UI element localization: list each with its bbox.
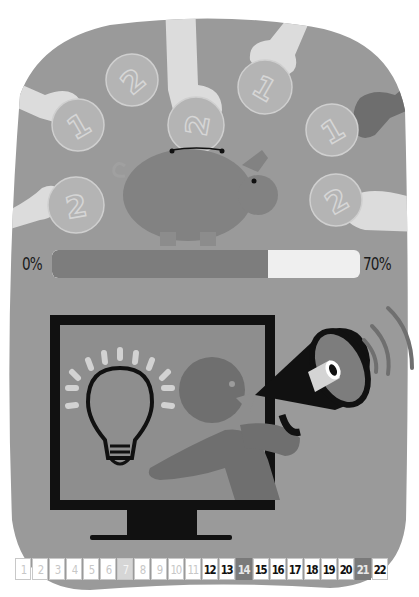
day-number: 12 <box>204 562 216 577</box>
day-number: 4 <box>71 562 76 577</box>
day-box: 22 <box>372 558 388 580</box>
progress-fill <box>52 250 268 278</box>
day-box: 4 <box>66 558 82 580</box>
day-box: 6 <box>100 558 116 580</box>
day-number: 6 <box>105 562 110 577</box>
day-box: 10 <box>168 558 184 580</box>
day-number: 9 <box>156 562 161 577</box>
day-number: 15 <box>255 562 267 577</box>
day-box: 16 <box>270 558 286 580</box>
day-number: 22 <box>374 562 386 577</box>
day-box: 2 <box>32 558 48 580</box>
day-number: 18 <box>306 562 318 577</box>
day-number: 11 <box>188 562 199 577</box>
day-box: 18 <box>304 558 320 580</box>
day-number: 13 <box>221 562 233 577</box>
day-number: 14 <box>238 562 250 577</box>
day-box: 21 <box>355 558 371 580</box>
day-box: 17 <box>287 558 303 580</box>
day-number: 1 <box>20 562 25 577</box>
day-box: 9 <box>151 558 167 580</box>
day-strip: 12345678910111213141516171819202122 <box>15 558 388 580</box>
day-box: 14 <box>236 558 252 580</box>
day-number: 5 <box>88 562 93 577</box>
day-number: 17 <box>289 562 301 577</box>
day-box: 8 <box>134 558 150 580</box>
progress-min-label: 0% <box>22 254 42 274</box>
day-number: 19 <box>323 562 335 577</box>
day-number: 10 <box>171 562 182 577</box>
day-box: 20 <box>338 558 354 580</box>
day-number: 3 <box>54 562 59 577</box>
progress-section: 0% 70% <box>0 248 419 282</box>
day-number: 8 <box>139 562 144 577</box>
progress-bar <box>52 250 360 278</box>
day-number: 7 <box>122 562 127 577</box>
day-box: 1 <box>15 558 31 580</box>
day-box: 5 <box>83 558 99 580</box>
day-box: 13 <box>219 558 235 580</box>
day-number: 21 <box>357 562 369 577</box>
day-number: 20 <box>340 562 352 577</box>
day-box: 3 <box>49 558 65 580</box>
illustration: 2 1 2 1 1 2 2 <box>0 0 419 597</box>
day-box: 19 <box>321 558 337 580</box>
day-box: 7 <box>117 558 133 580</box>
day-box: 11 <box>185 558 201 580</box>
day-number: 16 <box>272 562 284 577</box>
day-box: 15 <box>253 558 269 580</box>
day-number: 2 <box>37 562 42 577</box>
progress-max-label: 70% <box>363 254 391 274</box>
day-box: 12 <box>202 558 218 580</box>
